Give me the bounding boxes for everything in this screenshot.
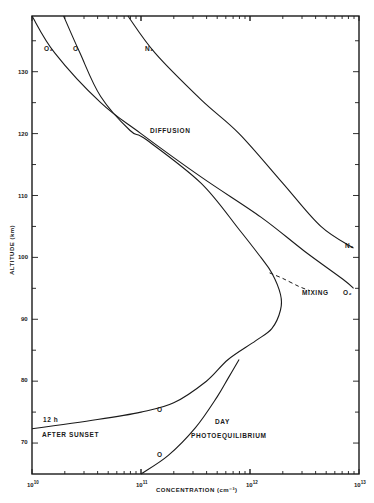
curve-o2 xyxy=(32,16,354,288)
label-after-sunset: AFTER SUNSET xyxy=(42,431,99,438)
label-12h: 12 h xyxy=(43,416,58,423)
x-tick-1e11: 1011 xyxy=(136,480,148,488)
altitude-concentration-chart: 130 120 110 100 90 80 70 1010 1011 1012 … xyxy=(0,0,374,503)
label-o-day: O xyxy=(157,451,163,458)
x-tick-1e10: 1010 xyxy=(27,480,39,488)
y-axis-title: ALTITUDE (km) xyxy=(9,225,15,275)
y-tick-90: 90 xyxy=(21,316,28,322)
label-day: DAY xyxy=(215,418,230,425)
y-tick-130: 130 xyxy=(18,69,29,75)
label-o-top: O xyxy=(73,45,79,52)
label-mixing: MIXING xyxy=(302,289,329,296)
curve-o xyxy=(32,16,282,429)
label-n2-right: N₂ xyxy=(345,242,354,249)
y-tick-110: 110 xyxy=(18,193,28,199)
label-o-night: O xyxy=(157,406,163,413)
label-diffusion: DIFFUSION xyxy=(150,127,190,134)
x-tick-1e13: 1013 xyxy=(354,480,366,488)
y-tick-70: 70 xyxy=(21,439,28,445)
plot-frame xyxy=(32,16,359,474)
label-photoequilibrium: PHOTOEQUILIBRIUM xyxy=(191,432,267,440)
curve-o-day-photoequilibrium xyxy=(141,360,239,475)
y-tick-120: 120 xyxy=(18,131,29,137)
label-o2-right: O₂ xyxy=(343,289,352,296)
curves xyxy=(32,16,354,474)
x-tick-1e12: 1012 xyxy=(246,480,258,488)
x-axis-title: CONCENTRATION (cm⁻³) xyxy=(156,487,238,493)
y-tick-100: 100 xyxy=(18,254,29,260)
label-o2-top: O₂ xyxy=(44,45,53,52)
y-tick-80: 80 xyxy=(21,377,28,383)
label-n2-top: N₂ xyxy=(145,45,154,52)
axis-ticks xyxy=(32,16,359,474)
y-tick-labels: 130 120 110 100 90 80 70 xyxy=(18,69,29,445)
